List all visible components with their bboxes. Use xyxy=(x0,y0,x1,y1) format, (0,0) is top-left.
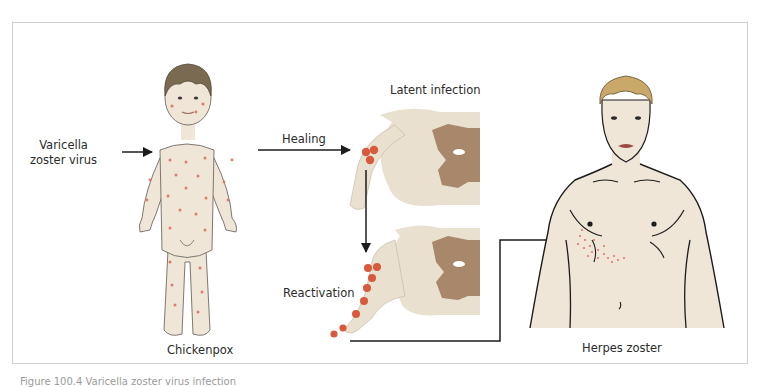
latent-infection-label: Latent infection xyxy=(390,83,480,97)
reactivation-label: Reactivation xyxy=(283,286,355,300)
virus-label: Varicella zoster virus xyxy=(30,138,97,168)
adult-figure-icon xyxy=(530,76,724,328)
chickenpox-label: Chickenpox xyxy=(167,343,233,357)
virus-label-line-2: zoster virus xyxy=(30,153,97,168)
spinal-cord-latent-icon xyxy=(350,109,480,210)
spinal-cord-reactivation-icon xyxy=(330,225,480,337)
virus-label-line-1: Varicella xyxy=(30,138,97,153)
child-figure-icon xyxy=(139,64,236,335)
figure-caption: Figure 100.4 Varicella zoster virus infe… xyxy=(20,376,236,387)
healing-label: Healing xyxy=(282,132,326,146)
herpes-zoster-label: Herpes zoster xyxy=(582,341,662,355)
